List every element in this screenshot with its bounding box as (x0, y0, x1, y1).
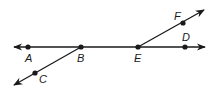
point-d (182, 44, 187, 49)
label-d: D (182, 31, 190, 43)
label-b: B (77, 52, 84, 64)
label-e: E (134, 52, 142, 64)
label-c: C (39, 73, 47, 85)
point-e (135, 44, 140, 49)
point-c (32, 70, 37, 75)
label-a: A (24, 52, 32, 64)
label-f: F (174, 10, 182, 22)
point-f (180, 20, 185, 25)
geometry-diagram: ABCEDF (0, 0, 219, 89)
point-a (25, 44, 30, 49)
points-layer (25, 20, 187, 75)
ray-EF (138, 10, 204, 47)
point-b (78, 44, 83, 49)
